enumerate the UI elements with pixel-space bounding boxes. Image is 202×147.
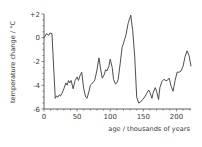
y-axis-title: temperature change / °C bbox=[9, 21, 17, 104]
tick-labels: +20-2-4-6050100150200 bbox=[30, 11, 183, 122]
x-axis-title: age / thousands of years bbox=[108, 125, 190, 133]
y-tick-label: 0 bbox=[36, 34, 40, 42]
x-tick-label: 100 bbox=[104, 113, 117, 121]
x-tick-label: 0 bbox=[42, 113, 46, 121]
x-tick-label: 200 bbox=[170, 113, 183, 121]
axes bbox=[44, 14, 191, 109]
x-tick-label: 150 bbox=[137, 113, 150, 121]
y-tick-label: -6 bbox=[33, 106, 41, 114]
temperature-line bbox=[44, 15, 191, 103]
x-tick-label: 50 bbox=[73, 113, 82, 121]
ticks bbox=[42, 14, 190, 112]
y-tick-label: -2 bbox=[33, 58, 40, 66]
y-tick-label: -4 bbox=[33, 82, 41, 90]
temperature-chart: +20-2-4-6050100150200 temperature change… bbox=[0, 0, 202, 147]
y-tick-label: +2 bbox=[30, 11, 40, 19]
